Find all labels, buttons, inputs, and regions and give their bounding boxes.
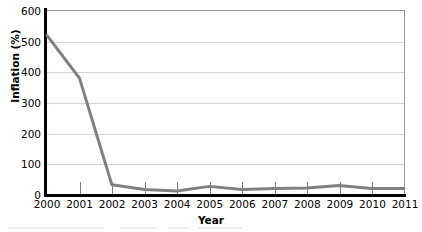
x-axis-tick-label: 2010 bbox=[359, 198, 386, 210]
scan-artifact bbox=[198, 227, 242, 229]
x-axis-tick-label: 2009 bbox=[327, 198, 354, 210]
x-axis-tick-label: 2001 bbox=[66, 198, 93, 210]
scan-artifact bbox=[120, 227, 156, 229]
y-axis-title: Inflation (%) bbox=[9, 6, 21, 126]
plot-area: 0100200300400500600 bbox=[47, 10, 405, 194]
x-axis-tick-label: 2004 bbox=[164, 198, 191, 210]
scan-artifact bbox=[168, 227, 188, 229]
x-axis-tick-label: 2008 bbox=[294, 198, 321, 210]
x-axis-tick-label: 2007 bbox=[261, 198, 288, 210]
x-axis-tick-label: 2002 bbox=[99, 198, 126, 210]
y-axis-tick-label: 300 bbox=[21, 97, 41, 109]
x-axis-tick-label: 2011 bbox=[392, 198, 419, 210]
y-axis-tick-label: 100 bbox=[21, 158, 41, 170]
data-series-inflation bbox=[47, 11, 404, 194]
x-axis-tick-label: 2003 bbox=[131, 198, 158, 210]
x-axis-tick-label: 2006 bbox=[229, 198, 256, 210]
y-axis-tick-label: 500 bbox=[21, 36, 41, 48]
x-axis-tick-label: 2005 bbox=[196, 198, 223, 210]
x-axis-title: Year bbox=[0, 214, 422, 226]
y-axis-tick-label: 600 bbox=[21, 5, 41, 17]
scan-artifact bbox=[8, 227, 104, 229]
y-axis-tick-label: 200 bbox=[21, 128, 41, 140]
line-chart: Inflation (%) 0100200300400500600 200020… bbox=[0, 0, 422, 232]
y-axis-tick-label: 400 bbox=[21, 66, 41, 78]
x-axis-line bbox=[44, 194, 406, 197]
x-axis-tick-label: 2000 bbox=[34, 198, 61, 210]
